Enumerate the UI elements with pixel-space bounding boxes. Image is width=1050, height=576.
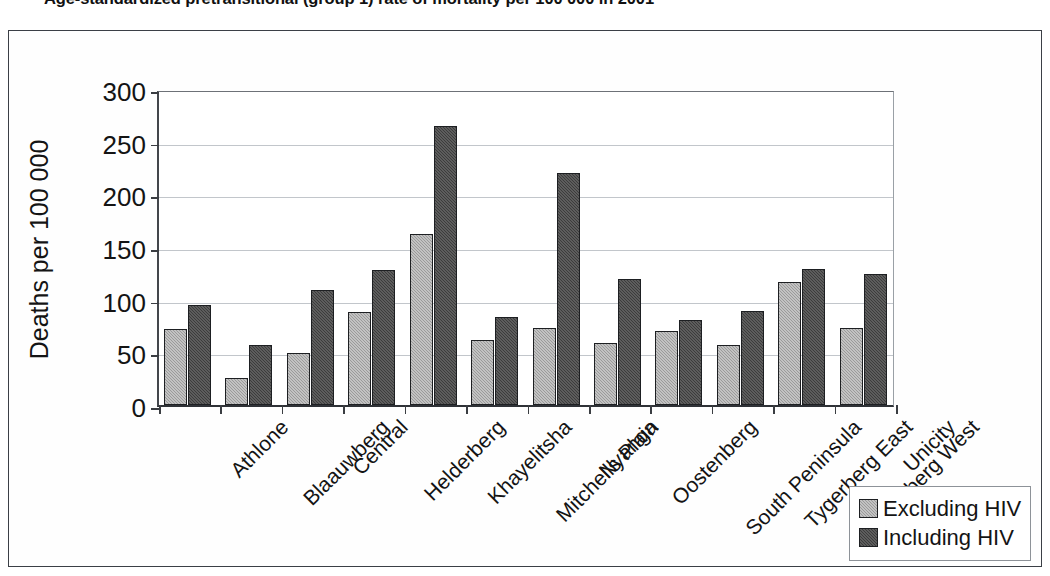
legend-swatch-icon-including-hiv [859,528,878,547]
y-axis-tick [151,250,159,252]
bar [679,320,702,405]
bar [533,328,556,405]
y-axis-tick [151,197,159,199]
bar [434,126,457,405]
x-axis-tick [220,405,222,414]
figure-frame: Deaths per 100 000 050100150200250300 At… [8,30,1042,567]
bar-group [405,92,466,405]
bar-group [159,92,220,405]
bar [717,345,740,405]
x-axis-tick [343,405,345,414]
x-axis-tick [773,405,775,414]
legend-item-including-hiv: Including HIV [859,523,1021,552]
bar [495,317,518,405]
chart-legend: Excluding HIV Including HIV [849,486,1031,561]
legend-swatch-icon-excluding-hiv [859,499,878,518]
x-axis-tick [466,405,468,414]
y-axis-tick-label: 150 [103,235,146,266]
bar [188,305,211,405]
x-axis-category-label: Oostenberg [667,415,762,510]
x-axis-tick [896,405,898,414]
bar [225,378,248,405]
bar-group [835,92,896,405]
plot-area: 050100150200250300 [157,91,894,407]
bar [249,345,272,405]
y-axis-tick [151,303,159,305]
bar [655,331,678,405]
bar [471,340,494,405]
x-axis-tick [282,405,284,414]
bar [618,279,641,405]
y-axis-tick-label: 300 [103,77,146,108]
bar [287,353,310,405]
y-axis-tick [151,355,159,357]
y-axis-tick-label: 100 [103,287,146,318]
legend-label-including-hiv: Including HIV [883,525,1014,551]
x-axis-category-label: Athlone [226,415,293,482]
bar [164,329,187,405]
x-axis-tick [159,405,161,414]
y-axis-tick [151,408,159,410]
x-axis-tick [835,405,837,414]
bar [348,312,371,405]
bar-group [712,92,773,405]
bar [802,269,825,405]
bar [372,270,395,405]
bar [311,290,334,405]
y-axis-tick [151,145,159,147]
x-axis-tick [650,405,652,414]
bar-group [773,92,834,405]
bar-group [466,92,527,405]
y-axis-title: Deaths per 100 000 [23,91,57,407]
y-axis-tick-label: 0 [132,393,146,424]
bar-group [589,92,650,405]
y-axis-title-label: Deaths per 100 000 [26,139,55,359]
x-axis-tick [712,405,714,414]
bar-group [343,92,404,405]
bar-group [220,92,281,405]
y-axis-tick-label: 250 [103,129,146,160]
chart-title: Age-standardized pretransitional (group … [44,0,1024,8]
bar-group [282,92,343,405]
y-axis-tick-label: 50 [117,340,146,371]
legend-label-excluding-hiv: Excluding HIV [883,496,1021,522]
x-axis-tick [589,405,591,414]
bar [864,274,887,405]
bar [840,328,863,405]
bar-group [650,92,711,405]
bar [594,343,617,405]
bar [557,173,580,405]
x-axis-tick [405,405,407,414]
y-axis-tick-label: 200 [103,182,146,213]
bar [741,311,764,405]
bar-group [528,92,589,405]
x-axis-tick [528,405,530,414]
legend-item-excluding-hiv: Excluding HIV [859,494,1021,523]
bar [778,282,801,405]
bar [410,234,433,405]
y-axis-tick [151,92,159,94]
x-axis-category-label: Nyanga [595,415,663,483]
